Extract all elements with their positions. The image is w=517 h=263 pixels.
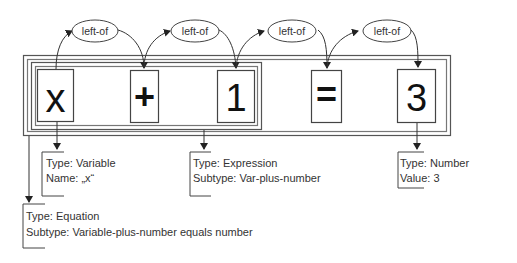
- annotation-number-value: Value: 3: [400, 172, 440, 184]
- annotation-number: Type: Number Value: 3: [400, 157, 469, 184]
- annotation-equation-subtype: Subtype: Variable-plus-number equals num…: [26, 226, 253, 238]
- relation-left-of-4: left-of: [363, 20, 411, 42]
- annotation-variable-name: Name: „x“: [46, 172, 95, 184]
- token-plus: +: [131, 71, 159, 123]
- relation-left-of-1: left-of: [72, 20, 118, 42]
- relation-arc-4-out: [327, 31, 358, 68]
- token-one-text: 1: [225, 77, 246, 119]
- relation-arc-3-in: [318, 30, 327, 68]
- token-equals: =: [312, 71, 342, 123]
- token-three: 3: [398, 70, 436, 123]
- token-x: x: [38, 70, 74, 122]
- annotation-variable-type: Type: Variable: [46, 157, 116, 169]
- relation-label: left-of: [82, 25, 108, 37]
- relation-left-of-2: left-of: [171, 20, 219, 42]
- annotation-equation: Type: Equation Subtype: Variable-plus-nu…: [26, 210, 253, 238]
- relation-label: left-of: [182, 25, 208, 37]
- annotation-variable: Type: Variable Name: „x“: [46, 157, 116, 184]
- annotation-number-type: Type: Number: [400, 157, 469, 169]
- annotation-expression-type: Type: Expression: [193, 157, 277, 169]
- annotation-equation-type: Type: Equation: [26, 210, 99, 222]
- equation-structure-diagram: x + 1 = 3 left-of left-of left-of: [0, 0, 517, 263]
- token-one: 1: [218, 71, 255, 123]
- token-three-text: 3: [406, 77, 427, 119]
- relation-label: left-of: [374, 25, 400, 37]
- annotation-expression: Type: Expression Subtype: Var-plus-numbe…: [193, 157, 321, 184]
- annotation-expression-subtype: Subtype: Var-plus-number: [193, 172, 321, 184]
- relation-arc-1-out: [56, 31, 72, 69]
- token-equals-text: =: [316, 74, 337, 115]
- relation-left-of-3: left-of: [268, 20, 316, 42]
- token-x-text: x: [46, 76, 66, 120]
- relation-arc-4-in: [411, 30, 418, 67]
- relation-label: left-of: [279, 25, 305, 37]
- token-plus-text: +: [134, 76, 155, 117]
